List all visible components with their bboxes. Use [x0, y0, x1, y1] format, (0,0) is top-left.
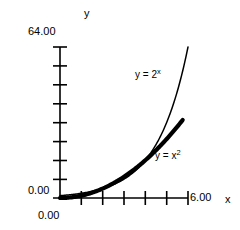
y-axis-min-label: 0.00 — [28, 185, 49, 196]
curve-label-quadratic-base: y = x — [155, 150, 176, 161]
x-axis-min-label: 0.00 — [38, 210, 59, 221]
curve-label-quadratic: y = x2 — [155, 151, 181, 161]
y-axis-max-label: 64.00 — [28, 26, 56, 37]
curve-label-exponential-exponent: x — [157, 67, 161, 76]
x-axis-name: x — [225, 194, 231, 205]
x-axis-max-label: 6.00 — [190, 192, 211, 203]
curve-label-exponential: y = 2x — [135, 70, 161, 80]
curve-label-quadratic-exponent: 2 — [176, 148, 180, 157]
graph-figure: y 64.00 0.00 x 6.00 0.00 y = 2x y = x2 — [0, 0, 240, 230]
curve-exponential — [60, 47, 188, 196]
curve-label-exponential-base: y = 2 — [135, 69, 157, 80]
y-axis-name: y — [84, 8, 90, 19]
